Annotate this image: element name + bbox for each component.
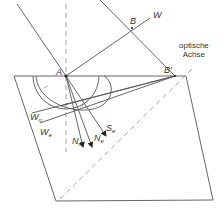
point-b-marker <box>131 27 133 29</box>
label-we-sub: e <box>49 132 52 138</box>
birefringence-diagram <box>0 0 223 215</box>
label-se: Se <box>106 124 115 134</box>
label-ne: Ne <box>94 134 104 144</box>
label-ne-sub: e <box>101 138 104 144</box>
optic-axis-label: optische Achse <box>179 42 209 60</box>
incident-ray-a <box>17 4 66 76</box>
point-a-marker <box>64 74 67 77</box>
wavefront-we <box>40 76 175 123</box>
label-we: We <box>40 128 52 138</box>
label-no: No <box>72 137 82 147</box>
label-w: W <box>153 11 162 20</box>
optic-axis-label-line2: Achse <box>179 51 209 60</box>
label-b-prime: B' <box>164 66 172 75</box>
crystal-outline <box>14 76 213 201</box>
label-wo: Wo <box>30 113 42 123</box>
label-a: A <box>56 68 62 77</box>
label-no-sub: o <box>79 141 82 147</box>
label-wo-main: W <box>30 112 39 122</box>
label-se-sub: e <box>112 128 115 134</box>
label-wo-sub: o <box>39 117 42 123</box>
ray-se <box>66 76 106 136</box>
point-bprime-marker <box>174 75 176 77</box>
label-we-main: W <box>40 127 49 137</box>
wavefront-extra <box>60 76 175 106</box>
tangent-mark-1 <box>44 86 48 88</box>
wavefront-w <box>66 18 150 76</box>
label-b: B <box>130 17 136 26</box>
extraordinary-wavelet-ellipse <box>36 76 111 110</box>
